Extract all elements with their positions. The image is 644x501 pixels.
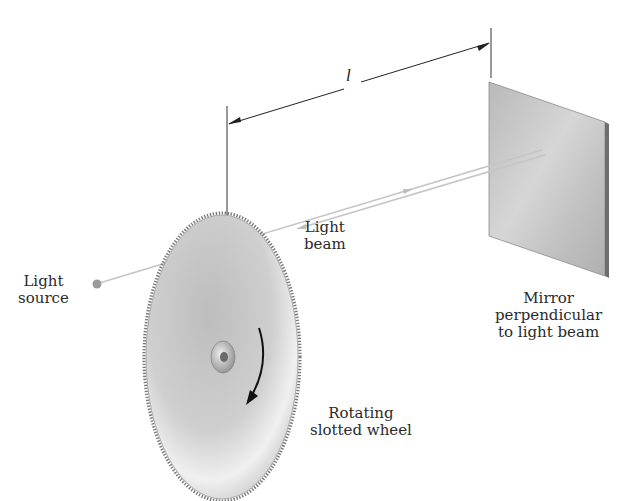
light-beam-label-line: Light [304,219,346,236]
wheel-label-line: slotted wheel [310,422,412,439]
light-source-label-line: Light [18,273,69,290]
rotating-slotted-wheel [144,213,300,501]
mirror [489,82,609,278]
diagram: l Light source Light beam Mirror perpend… [0,0,644,501]
mirror-label-line: Mirror [495,290,602,307]
wheel-axle [220,352,228,362]
mirror-label-line: to light beam [495,324,602,341]
dimension-line-right [361,43,489,82]
light-source-label: Light source [18,273,69,307]
mirror-face [489,82,605,276]
light-beam-label: Light beam [304,219,346,253]
mirror-label: Mirror perpendicular to light beam [495,290,602,341]
dimension-arrowhead-left [228,117,241,124]
wheel-label-line: Rotating [310,405,412,422]
wheel-label: Rotating slotted wheel [310,405,412,439]
beam-outgoing [96,150,542,284]
beam-arrow-outgoing [403,189,413,194]
light-beam [96,150,545,284]
light-source-label-line: source [18,290,69,307]
light-source-dot [93,280,102,289]
light-beam-label-line: beam [304,236,346,253]
distance-label: l [346,66,351,86]
distance-dimension [227,28,491,215]
dimension-line-left [229,89,344,124]
mirror-label-line: perpendicular [495,307,602,324]
mirror-edge [605,122,609,278]
